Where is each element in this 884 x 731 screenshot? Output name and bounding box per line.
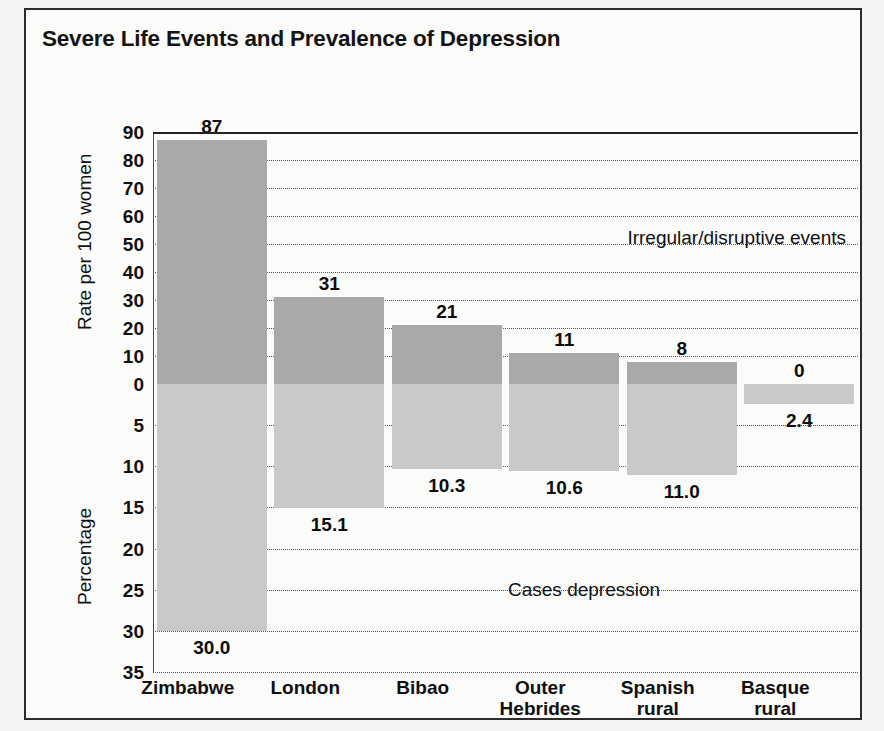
bar-value-bottom: 11.0 [627,482,737,501]
bar-value-bottom: 15.1 [274,515,384,534]
x-category-label: London [250,678,360,699]
y-tick-bottom: 5 [98,416,144,435]
bar-value-top: 31 [274,274,384,293]
y-tick-bottom: 20 [98,540,144,559]
x-category-label: OuterHebrides [485,678,595,719]
y-tick-labels-bottom: 5101520253035 [92,132,144,672]
bar-value-bottom: 10.3 [392,476,502,495]
y-tick-bottom: 25 [98,581,144,600]
x-category-label-line: London [250,678,360,699]
bar-value-bottom: 30.0 [157,638,267,657]
bar-bottom [509,384,619,471]
x-category-label-line: Zimbabwe [133,678,243,699]
bar-top [627,362,737,384]
bar-top [392,325,502,384]
gridline [153,672,858,673]
bar-value-top: 11 [509,330,619,349]
bar-value-bottom: 10.6 [509,478,619,497]
bar-value-bottom: 2.4 [744,411,854,430]
x-category-label-line: Bibao [368,678,478,699]
x-category-label: Basquerural [720,678,830,719]
bar-bottom [627,384,737,475]
bar-bottom [274,384,384,508]
x-category-label-line: Spanish [603,678,713,699]
series-annotation: Cases depression [508,579,660,601]
x-category-label-line: Basque [720,678,830,699]
figure-frame: Severe Life Events and Prevalence of Dep… [24,8,862,720]
x-category-label-line: rural [720,699,830,720]
x-category-label: Bibao [368,678,478,699]
y-axis-line [153,132,154,672]
bar-value-top: 21 [392,302,502,321]
y-tick-bottom: 30 [98,622,144,641]
series-annotation: Irregular/disruptive events [627,227,846,249]
gridline [153,631,858,632]
bar-bottom [392,384,502,469]
bar-top [157,140,267,384]
bar-top [509,353,619,384]
bar-bottom [744,384,854,404]
x-category-label: Spanishrural [603,678,713,719]
x-category-label-line: Outer [485,678,595,699]
chart-title: Severe Life Events and Prevalence of Dep… [42,26,560,52]
plot-area: 8730.03115.12110.31110.6811.002.4 Irregu… [153,132,858,672]
bar-value-top: 8 [627,339,737,358]
x-category-label-line: Hebrides [485,699,595,720]
y-tick-bottom: 15 [98,498,144,517]
bar-bottom [157,384,267,631]
bar-top [274,297,384,384]
bar-value-top: 0 [744,361,854,380]
x-category-label-line: rural [603,699,713,720]
zero-baseline [153,132,858,134]
y-tick-bottom: 10 [98,457,144,476]
x-category-label: Zimbabwe [133,678,243,699]
